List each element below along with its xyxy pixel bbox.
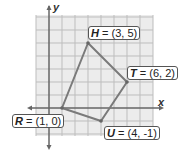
point-label-T: T = (6, 2) xyxy=(127,66,178,80)
point-label-U: U = (4, -1) xyxy=(104,126,160,140)
point-coord: (3, 5) xyxy=(112,27,138,39)
x-axis-left-arrow-icon xyxy=(27,106,32,111)
point-name: U xyxy=(107,127,115,139)
point-label-H: H = (3, 5) xyxy=(88,26,140,40)
y-axis-label: y xyxy=(53,1,59,13)
point-label-R: R = (1, 0) xyxy=(12,114,64,128)
point-coord: (1, 0) xyxy=(36,115,62,127)
y-axis-down-arrow-icon xyxy=(47,145,52,150)
point-name: T xyxy=(130,67,137,79)
x-axis-label: x xyxy=(158,96,164,108)
point-name: H xyxy=(91,27,99,39)
point-coord: (6, 2) xyxy=(149,67,175,79)
point-coord: (4, -1) xyxy=(128,127,157,139)
point-name: R xyxy=(15,115,23,127)
y-axis-up-arrow-icon xyxy=(47,5,52,10)
